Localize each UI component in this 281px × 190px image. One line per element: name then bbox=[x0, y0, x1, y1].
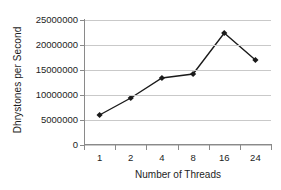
x-axis-tick-label: 4 bbox=[146, 152, 177, 164]
y-axis-tick-label: 10000000 bbox=[16, 90, 78, 100]
y-axis-tick-label: 5000000 bbox=[16, 115, 78, 125]
y-axis-tick-label: 0 bbox=[16, 140, 78, 150]
y-axis-tick-mark bbox=[80, 70, 85, 71]
gridline bbox=[84, 95, 271, 96]
x-axis-tick-mark bbox=[146, 145, 147, 150]
x-axis-tick-mark bbox=[115, 145, 116, 150]
x-axis-tick-mark bbox=[178, 145, 179, 150]
x-axis-tick-mark bbox=[240, 145, 241, 150]
plot-area bbox=[84, 20, 271, 145]
y-axis-tick-mark bbox=[80, 120, 85, 121]
y-axis-tick-mark bbox=[80, 95, 85, 96]
y-axis-tick-mark bbox=[80, 45, 85, 46]
y-axis-tick-label: 15000000 bbox=[16, 65, 78, 75]
gridline bbox=[84, 120, 271, 121]
x-axis-tick-mark bbox=[271, 145, 272, 150]
line-chart: Dhrystones per Second 050000001000000015… bbox=[0, 0, 281, 190]
data-point-marker bbox=[96, 112, 102, 118]
gridline bbox=[84, 45, 271, 46]
x-axis-tick-label: 2 bbox=[115, 152, 146, 164]
y-axis-tick-label: 20000000 bbox=[16, 40, 78, 50]
x-axis-tick-labels: 12481624 bbox=[84, 152, 272, 166]
y-axis-tick-mark bbox=[80, 20, 85, 21]
y-axis-tick-labels: 0500000010000000150000002000000025000000 bbox=[16, 14, 78, 146]
x-axis-tick-mark bbox=[209, 145, 210, 150]
series-line bbox=[84, 20, 271, 145]
x-axis-tick-label: 16 bbox=[209, 152, 240, 164]
x-axis-tick-label: 8 bbox=[178, 152, 209, 164]
x-axis-tick-label: 1 bbox=[84, 152, 115, 164]
x-axis-tick-mark bbox=[84, 145, 85, 150]
y-axis-tick-label: 25000000 bbox=[16, 15, 78, 25]
gridline bbox=[84, 70, 271, 71]
x-axis-tick-label: 24 bbox=[240, 152, 271, 164]
x-axis-title: Number of Threads bbox=[84, 168, 272, 181]
gridline bbox=[84, 20, 271, 21]
